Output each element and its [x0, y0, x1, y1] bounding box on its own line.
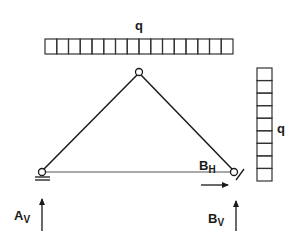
load-cell [151, 39, 163, 54]
side-distributed-load [257, 68, 272, 181]
load-cell [57, 39, 69, 54]
reaction-bh-label: BH [199, 158, 216, 175]
support-b-hinge-icon [231, 169, 238, 176]
support-a-hinge-icon [39, 169, 46, 176]
load-cell [257, 81, 272, 94]
load-cell [257, 131, 272, 144]
load-cell [139, 39, 151, 54]
load-cell [163, 39, 175, 54]
load-cell [257, 68, 272, 81]
load-cell [80, 39, 92, 54]
load-cell [45, 39, 57, 54]
left-rafter [44, 75, 137, 169]
frame-diagram: q q BH AV BV [0, 0, 307, 244]
load-cell [198, 39, 210, 54]
reaction-bv-label: BV [208, 211, 224, 228]
right-rafter [141, 75, 232, 169]
reaction-av-label: AV [14, 208, 30, 225]
load-cell [116, 39, 128, 54]
apex-hinge-icon [136, 69, 143, 76]
side-load-label: q [277, 121, 285, 136]
load-cell [104, 39, 116, 54]
load-cell [257, 168, 272, 181]
load-cell [92, 39, 104, 54]
load-cell [257, 118, 272, 131]
load-cell [174, 39, 186, 54]
load-cell [186, 39, 198, 54]
load-cell [257, 143, 272, 156]
top-load-label: q [135, 18, 143, 33]
load-cell [210, 39, 222, 54]
load-cell [257, 93, 272, 106]
load-cell [69, 39, 81, 54]
roller-support-icon [35, 177, 50, 180]
top-distributed-load [45, 39, 233, 54]
load-cell [257, 106, 272, 119]
load-cell [257, 156, 272, 169]
load-cell [127, 39, 139, 54]
load-cell [221, 39, 233, 54]
